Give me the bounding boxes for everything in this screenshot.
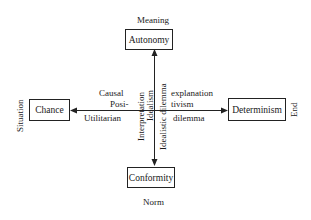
label-tivism: tivism xyxy=(171,100,194,109)
label-posi: Posi- xyxy=(110,100,129,109)
label-idealistic-dilemma: Idealistic dilemma xyxy=(159,83,168,150)
caption-situation: Situation xyxy=(16,99,25,132)
arrow-left-icon xyxy=(70,108,77,114)
arrow-right-icon xyxy=(221,108,228,114)
arrow-down-icon xyxy=(152,159,158,166)
label-explanation: explanation xyxy=(171,89,213,98)
label-utilitarian: Utilitarian xyxy=(84,114,121,123)
label-causal: Causal xyxy=(99,89,124,98)
arrow-up-icon xyxy=(152,49,158,56)
box-autonomy: Autonomy xyxy=(125,29,173,50)
caption-meaning: Meaning xyxy=(137,16,169,25)
label-dilemma: dilemma xyxy=(173,114,205,123)
box-chance: Chance xyxy=(29,99,70,121)
caption-norm: Norm xyxy=(143,198,164,207)
caption-end: End xyxy=(290,103,299,118)
box-determinism: Determinism xyxy=(228,98,286,121)
box-conformity: Conformity xyxy=(127,167,175,188)
label-idealism: Idealism xyxy=(146,90,155,121)
